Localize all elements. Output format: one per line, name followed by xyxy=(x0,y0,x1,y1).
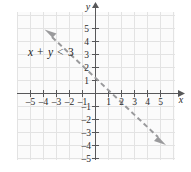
inequality-plus-sign: + xyxy=(37,46,44,58)
x-tick-label--5: –5 xyxy=(25,97,36,107)
x-tick-label--2: –2 xyxy=(64,97,75,107)
x-axis-label: x xyxy=(178,94,184,105)
y-axis-label: y xyxy=(85,1,91,12)
x-tick-label-3: 3 xyxy=(132,97,137,107)
x-tick-label-2: 2 xyxy=(119,97,124,107)
x-tick-label-5: 5 xyxy=(158,97,163,107)
y-tick-label--5: –5 xyxy=(81,154,92,164)
inequality-less-than-sign: < xyxy=(57,46,64,58)
y-tick-label--1: –1 xyxy=(81,102,92,112)
y-tick-label-5: 5 xyxy=(84,24,89,34)
inequality-graph-figure: –5 –4 –3 –2 –1 1 2 3 4 5 5 4 3 2 1 –1 –2… xyxy=(0,0,191,172)
y-tick-label-2: 2 xyxy=(84,63,89,73)
inequality-value: 3 xyxy=(68,46,74,58)
inequality-var-y: y xyxy=(47,46,54,59)
y-tick-label-3: 3 xyxy=(84,50,89,60)
y-tick-label-4: 4 xyxy=(84,37,89,47)
y-tick-label--2: –2 xyxy=(81,115,92,125)
coordinate-plane: –5 –4 –3 –2 –1 1 2 3 4 5 5 4 3 2 1 –1 –2… xyxy=(0,0,191,172)
y-tick-label--4: –4 xyxy=(81,141,92,151)
x-tick-label-4: 4 xyxy=(145,97,150,107)
x-tick-label--3: –3 xyxy=(51,97,62,107)
x-tick-label--4: –4 xyxy=(38,97,49,107)
x-tick-label-1: 1 xyxy=(106,97,111,107)
y-axis-arrow xyxy=(92,2,99,8)
y-tick-label--3: –3 xyxy=(81,128,92,138)
inequality-var-x: x xyxy=(27,46,34,58)
y-tick-label-1: 1 xyxy=(84,76,89,86)
